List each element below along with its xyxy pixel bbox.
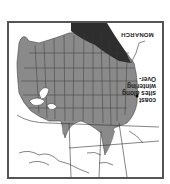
- map-frame: MONARCH coast sites along wintering Over…: [7, 21, 164, 179]
- overwintering-note: coast sites along wintering Over-: [118, 76, 156, 104]
- map-title: MONARCH: [121, 32, 154, 38]
- note-line-3: sites along: [118, 90, 156, 97]
- note-line-1: Over-: [118, 76, 156, 83]
- note-line-4: coast: [118, 97, 156, 104]
- note-line-2: wintering: [118, 83, 156, 90]
- canada-borders: [17, 115, 159, 177]
